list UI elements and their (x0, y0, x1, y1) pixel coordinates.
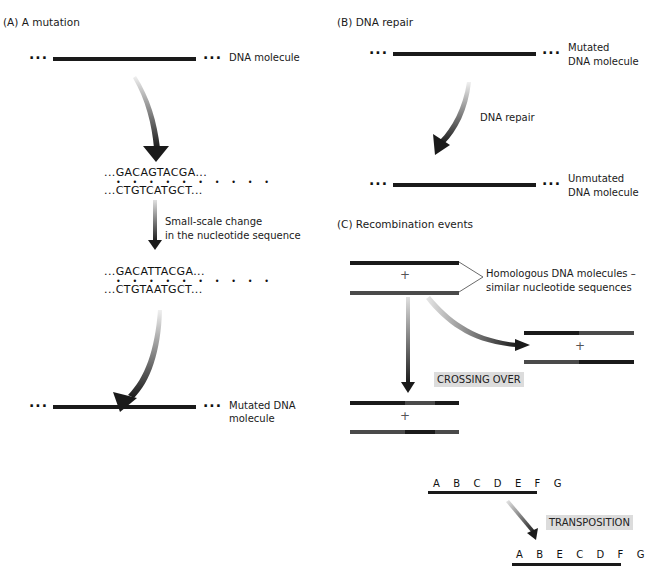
transposition-arrow-icon (506, 500, 538, 540)
crossing-over-tag: CROSSING OVER (434, 372, 524, 387)
sequence-bottom-strand: ...CTGTCATGCT... (104, 185, 203, 197)
mutated-dna-strand (393, 52, 536, 56)
transposition-tag: TRANSPOSITION (546, 515, 633, 530)
ellipsis-right-icon: ··· (542, 181, 561, 187)
mutated-dna-strand (53, 405, 196, 409)
mutated-dna-label-line2: molecule (229, 413, 275, 426)
panel-a-title: (A) A mutation (3, 16, 80, 28)
panel-b-title: (B) DNA repair (337, 16, 413, 28)
ellipsis-left-icon: ··· (369, 181, 388, 187)
product-strand-segment (524, 331, 579, 335)
ellipsis-right-icon: ··· (203, 55, 222, 61)
panel-c-title: (C) Recombination events (337, 218, 473, 230)
change-label-line1: Small-scale change (165, 216, 262, 229)
ellipsis-left-icon: ··· (29, 403, 48, 409)
gene-order-transposed: A B E C D F G (516, 549, 650, 560)
product-strand-segment (435, 430, 459, 434)
plus-symbol: + (575, 339, 585, 353)
homologous-label-line1: Homologous DNA molecules – (486, 268, 636, 281)
homolog-strand-2 (350, 291, 459, 295)
product-strand-segment (524, 360, 579, 364)
homologous-label-line2: similar nucleotide sequences (486, 282, 632, 295)
unmutated-label-line1: Unmutated (568, 173, 624, 186)
small-scale-change-arrow-icon (148, 200, 162, 250)
dna-repair-arrow-icon (433, 82, 471, 155)
product-strand-segment (435, 401, 459, 405)
mutated-label-line2: DNA molecule (568, 56, 639, 69)
crossover-down-arrow-icon (401, 297, 415, 393)
mutated-label-line1: Mutated (568, 42, 609, 55)
plus-symbol: + (400, 268, 410, 282)
product-strand-segment (350, 430, 405, 434)
transposition-strand (428, 491, 537, 494)
mutation-arrow-1-icon (133, 76, 169, 162)
homolog-strand-1 (350, 261, 459, 265)
change-label-line2: in the nucleotide sequence (165, 230, 301, 243)
product-strand-segment (579, 331, 634, 335)
mutated-dna-label-line1: Mutated DNA (229, 400, 296, 413)
homologous-bracket (459, 262, 483, 292)
unmutated-label-line2: DNA molecule (568, 187, 639, 200)
dna-repair-arrow-label: DNA repair (480, 112, 535, 125)
product-strand-segment (579, 360, 634, 364)
dna-strand (53, 57, 196, 61)
ellipsis-left-icon: ··· (369, 50, 388, 56)
sequence-bottom-strand: ...CTGTAATGCT... (104, 284, 203, 296)
gene-order-original: A B C D E F G (433, 478, 567, 489)
ellipsis-right-icon: ··· (542, 50, 561, 56)
unmutated-dna-strand (393, 183, 536, 187)
ellipsis-left-icon: ··· (29, 55, 48, 61)
product-strand-segment (350, 401, 405, 405)
transposition-strand (512, 563, 621, 566)
mutation-arrow-2-icon (113, 310, 162, 412)
product-strand-segment (405, 401, 435, 405)
dna-molecule-label: DNA molecule (229, 52, 300, 65)
product-strand-segment (405, 430, 435, 434)
ellipsis-right-icon: ··· (203, 403, 222, 409)
crossover-curve-arrow-icon (426, 296, 530, 351)
plus-symbol: + (400, 409, 410, 423)
